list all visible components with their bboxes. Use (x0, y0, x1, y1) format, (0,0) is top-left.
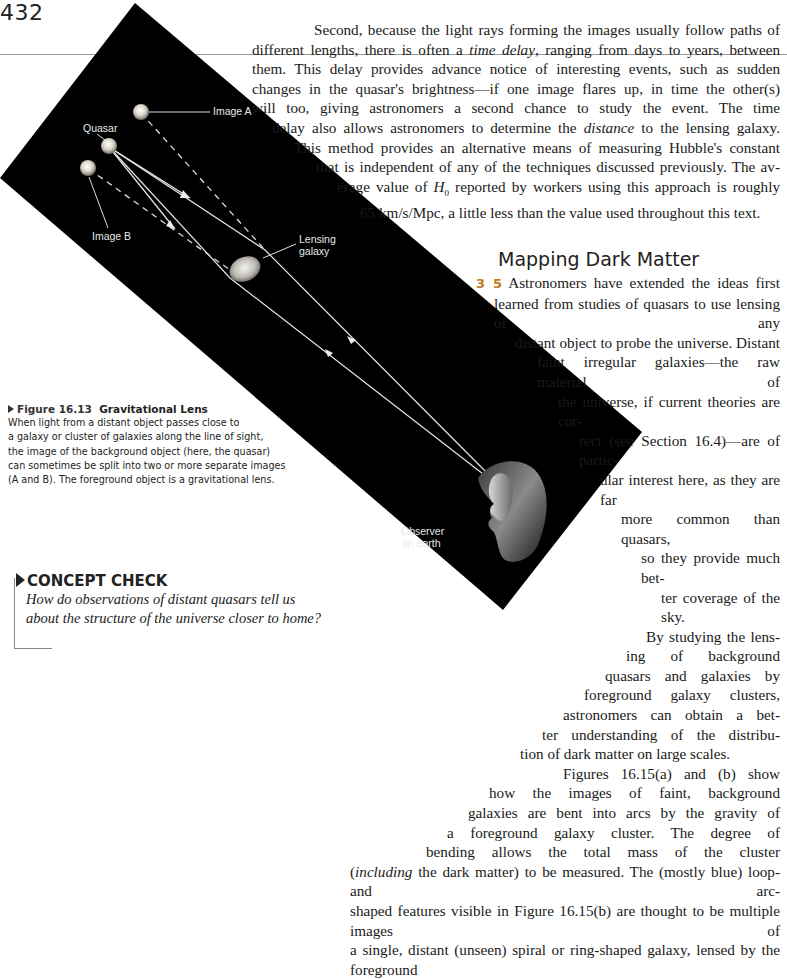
image-b-icon (80, 160, 96, 176)
text-line: By studying the lens- (646, 627, 780, 647)
text-line: shaped features visible in Figure 16.15(… (350, 901, 780, 940)
text-line: more common than quasars, (621, 509, 780, 548)
concept-check-border (14, 578, 15, 648)
text-line: 3 5 Astronomers have extended the ideas … (476, 273, 780, 294)
text-line: how the images of faint, background (489, 783, 780, 803)
figure-caption: Figure 16.13 Gravitational Lens When lig… (8, 402, 338, 487)
text-line: 65 km/s/Mpc, a little less than the valu… (360, 203, 780, 223)
text-line: bending allows the total mass of the clu… (426, 842, 780, 862)
text-line: foreground galaxy clusters, (584, 685, 780, 705)
text-line: a foreground galaxy cluster. The degree … (447, 823, 780, 843)
label-lensing-galaxy-line1: Lensing (299, 233, 336, 245)
text-line: different lengths, there is often a time… (252, 40, 780, 60)
text-line: so they provide much bet- (641, 548, 780, 587)
label-image-a: Image A (213, 105, 252, 117)
text-line: rect (see Section 16.4)—are of partic- (579, 431, 780, 470)
text-line: changes in the quasar's brightness—if on… (252, 79, 780, 99)
label-quasar: Quasar (83, 122, 118, 134)
label-lensing-galaxy-line2: galaxy (299, 245, 330, 257)
text-line: ing of background (626, 646, 780, 666)
text-line: learned from studies of quasars to use l… (494, 294, 780, 333)
caption-line: When light from a distant object passes … (8, 416, 338, 430)
concept-check-question-line1: How do observations of distant quasars t… (26, 590, 346, 609)
concept-check-question-line2: about the structure of the universe clos… (26, 609, 346, 628)
text-line: galaxies are bent into arcs by the gravi… (468, 803, 780, 823)
text-line: (including the dark matter) to be measur… (350, 862, 780, 901)
text-line: ter understanding of the distribu- (542, 725, 780, 745)
text-line: tion of dark matter on large scales. (520, 744, 780, 764)
caption-line: can sometimes be split into two or more … (8, 459, 338, 473)
text-line: them. This delay provides advance notice… (252, 59, 780, 79)
caption-arrow-icon (8, 405, 14, 413)
caption-line: a galaxy or cluster of galaxies along th… (8, 430, 338, 444)
text-line: astronomers can obtain a bet- (563, 705, 780, 725)
text-line: a single, distant (unseen) spiral or rin… (350, 940, 780, 979)
label-image-b: Image B (92, 230, 131, 242)
text-line: that is independent of any of the techni… (316, 157, 780, 177)
text-line: ter coverage of the sky. (661, 588, 780, 627)
caption-title: Figure 16.13 Gravitational Lens (8, 402, 338, 416)
concept-arrow-icon (16, 573, 25, 587)
text-line: delay also allows astronomers to determi… (272, 118, 780, 138)
text-line: This method provides an alternative mean… (294, 138, 780, 158)
caption-line: the image of the background object (here… (8, 445, 338, 459)
text-line: distant object to probe the universe. Di… (515, 333, 780, 353)
text-line: Second, because the light rays forming t… (252, 20, 780, 40)
text-line: faint irregular galaxies—the raw materia… (537, 352, 780, 391)
text-line: erage value of H0 reported by workers us… (337, 177, 780, 204)
concept-check-heading: CONCEPT CHECK (16, 572, 346, 590)
learning-goal-marker: 3 5 (476, 276, 502, 291)
caption-line: (A and B). The foreground object is a gr… (8, 473, 338, 487)
text-line: the universe, if current theories are co… (558, 392, 780, 431)
image-a-icon (133, 104, 149, 120)
text-line: quasars and galaxies by (605, 666, 780, 686)
text-line: ular interest here, as they are far (600, 470, 780, 509)
text-line: Figures 16.15(a) and (b) show (563, 764, 780, 784)
quasar-icon (101, 138, 117, 154)
text-line: will too, giving astronomers a second ch… (252, 98, 780, 118)
section-heading: Mapping Dark Matter (498, 248, 699, 270)
concept-check-box: CONCEPT CHECK How do observations of dis… (16, 572, 346, 628)
paragraph-time-delay: Second, because the light rays forming t… (252, 20, 780, 223)
concept-check-underline (14, 648, 52, 649)
